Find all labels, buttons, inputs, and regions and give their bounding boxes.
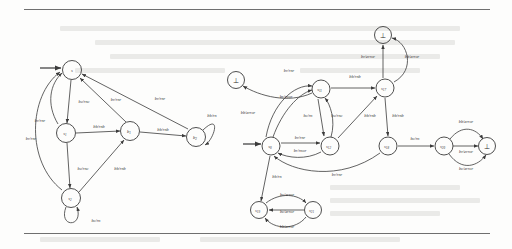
right-edge-labels: br/rnrbr/rnorbb/rnbbc/rnbc/rncbb/rnbbb/e… [241,54,474,229]
state-node-bottom-right[interactable]: ⊥ [479,138,496,155]
state-label-b1: b1 [127,129,131,135]
state-label-s19: s19 [255,208,260,214]
edge-label: bb/rnb [349,74,361,79]
state-node-s0r[interactable]: s0 [262,137,280,155]
state-label-s11: s11 [317,87,322,93]
state-node-s21[interactable]: s21 [305,202,322,219]
state-node-s18[interactable]: s18 [379,137,397,155]
edge-label: bc/rnc [79,99,90,104]
edge-label: br/error [459,149,473,154]
state-label-s12: s12 [326,144,331,150]
edge-label: bb/rn [272,174,281,179]
edge-label: bb/rnb [157,127,169,132]
edge-s1-s2 [67,143,70,188]
edge-label: br/rnr [26,136,37,141]
state-node-b1[interactable]: b1 [121,122,140,141]
edge-s11-bot-left [243,86,312,98]
left-edge-labels: bc/rncbr/rnrbr/rnrbr/rnrbr/rnrbb/rnbbb/r… [26,96,217,223]
edge-label: bc/rn [303,113,312,118]
right-automaton: ⊥ ⊥ ⊥ s0 s11 s12 [228,27,496,230]
edge-s17-s18 [385,98,388,136]
state-label-s21: s21 [309,208,314,214]
state-label-s2: s2 [68,196,72,202]
state-node-s17[interactable]: s17 [376,79,394,97]
edge-s18-s0r [274,153,380,171]
edge-s11-s12 [318,99,324,136]
state-label-s0r: s0 [268,144,272,150]
figure-page: s s1 b1 b2 s2 bc/rncbr/rnrbr/rnrbr/rnrbr… [0,0,512,249]
edge-label: bc/error [280,209,294,214]
edge-label: br/rnr [35,118,46,123]
edge-label: br/rnr [155,96,166,101]
edge-label: bb/error [280,224,295,229]
edge-s20-bot-right-a [450,129,483,139]
edge-label: bb/error [241,110,256,115]
state-node-bottom-top[interactable]: ⊥ [375,27,392,44]
edge-s1-b1 [76,131,120,133]
state-machine-figure: s s1 b1 b2 s2 bc/rncbr/rnrbr/rnrbr/rnrbr… [0,0,512,249]
edge-label: bc/rn [91,218,100,223]
edge-label: bb/rnb [93,124,105,129]
state-label-s1: s1 [63,131,67,137]
edge-s20-bot-right-c [449,154,486,165]
state-label-bottom-left: ⊥ [233,77,239,85]
state-node-s12[interactable]: s12 [321,137,339,155]
edge-label: bb/rnb [392,113,404,118]
edge-label: br/rnor [294,148,307,153]
edge-label: br/rnr [295,135,306,140]
state-node-bottom-left[interactable]: ⊥ [228,72,245,89]
edge-label: br/rnr [111,97,122,102]
edge-s17-bot-top-b [392,38,407,82]
state-label-bottom-top: ⊥ [380,32,386,40]
edge-s1-s0 [51,73,62,124]
state-label-s17: s17 [381,86,386,92]
state-node-s1[interactable]: s1 [57,124,76,143]
edge-label: bc/rnc [78,166,89,171]
state-label-b2: b2 [193,135,197,141]
state-label-bottom-right: ⊥ [484,143,490,151]
edge-s2-s0 [36,72,63,190]
edge-label: bb/rnb [364,113,376,118]
edge-label: br/rnr [332,172,343,177]
state-node-s0[interactable]: s [63,61,82,80]
edge-label: bc/rnc [332,113,343,118]
edge-b2-s0 [82,74,188,129]
edge-s2-self [64,207,78,223]
edge-label: bb/rnb [114,166,126,171]
state-node-s11[interactable]: s11 [312,80,330,98]
state-node-s2[interactable]: s2 [62,189,81,208]
edge-b1-b2 [140,132,186,136]
edge-label: bb/error [405,54,420,59]
edge-label: br/rnor [280,94,293,99]
state-node-s19[interactable]: s19 [251,202,268,219]
edge-s0r-s19 [261,156,270,201]
edge-label: br/rnr [284,68,295,73]
edge-label: bc/error [280,192,294,197]
state-label-s20: s20 [440,144,445,150]
edge-label: bc/rn [410,136,419,141]
edge-label: br/error [361,54,375,59]
state-label-s18: s18 [384,144,389,150]
edge-label: bc/error [459,166,473,171]
edge-s0-s1 [67,80,71,123]
edge-label: bb/rn [207,113,216,118]
state-node-s20[interactable]: s20 [435,137,453,155]
state-label-s0: s [71,68,73,73]
edge-label: bb/error [459,119,474,124]
left-automaton: s s1 b1 b2 s2 bc/rncbr/rnrbr/rnrbr/rnrbr… [26,61,217,224]
state-node-b2[interactable]: b2 [187,128,206,147]
